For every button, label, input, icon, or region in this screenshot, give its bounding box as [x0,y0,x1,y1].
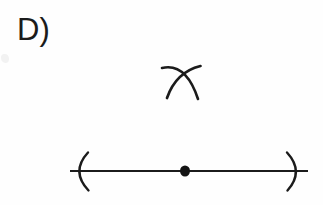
compass-arc-pair [162,66,201,99]
midpoint-dot [180,165,190,176]
construction-figure [0,0,323,205]
diagram-canvas: D) [0,0,323,205]
